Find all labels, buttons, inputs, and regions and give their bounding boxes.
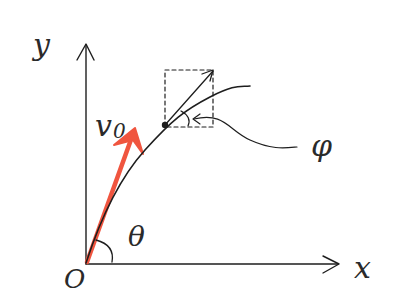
x-axis-label: x bbox=[354, 250, 371, 285]
v0-label: v 0 bbox=[95, 108, 126, 143]
y-axis-label: y bbox=[31, 27, 51, 62]
axes bbox=[77, 44, 339, 273]
projectile-diagram: y x O θ φ v 0 bbox=[0, 0, 408, 306]
theta-angle-arc bbox=[96, 240, 112, 262]
trajectory-point bbox=[162, 122, 168, 128]
tangent-arrowhead bbox=[202, 70, 213, 81]
v0-label-v: v bbox=[95, 108, 112, 143]
origin-label: O bbox=[64, 264, 85, 294]
v0-label-subscript: 0 bbox=[113, 119, 126, 143]
phi-leader-line bbox=[194, 117, 297, 147]
phi-label: φ bbox=[311, 128, 332, 163]
theta-label: θ bbox=[128, 220, 145, 253]
